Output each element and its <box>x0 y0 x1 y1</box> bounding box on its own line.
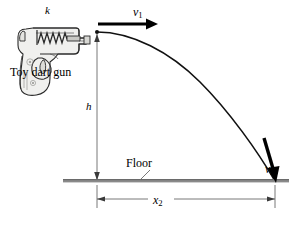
physics-figure-toy-dart-gun: k v1 Toy dart gun h Floor v2 x2 <box>0 0 293 226</box>
floor-line <box>63 179 289 182</box>
final-velocity-subscript: 2 <box>270 167 274 177</box>
spring-constant-label: k <box>45 5 50 16</box>
horizontal-dimension-arrow-icon <box>97 185 275 208</box>
horizontal-distance-label: x2 <box>153 194 163 208</box>
leader-line-icon <box>141 170 150 179</box>
gun-plunger-rod <box>67 36 80 41</box>
right-arrow-icon <box>98 19 158 30</box>
figure-canvas <box>0 0 293 226</box>
height-label: h <box>86 101 92 112</box>
floor-label: Floor <box>126 157 152 169</box>
horizontal-distance-subscript: 2 <box>158 198 162 208</box>
parabolic-curve-icon <box>97 32 275 181</box>
final-velocity-label: v2 <box>265 163 275 177</box>
vertical-dimension-arrow-icon <box>94 34 100 181</box>
launch-point-marker <box>95 30 99 34</box>
initial-velocity-subscript: 1 <box>138 10 142 20</box>
initial-velocity-label: v1 <box>133 6 143 20</box>
toy-dart-gun-icon <box>18 28 90 95</box>
gun-muzzle-tip <box>84 36 90 44</box>
device-name-label: Toy dart gun <box>10 66 71 78</box>
